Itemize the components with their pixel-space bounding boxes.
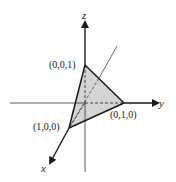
y-axis-label: y — [158, 97, 164, 109]
diagonal-line-upper — [99, 46, 117, 78]
x-axis-label: x — [40, 162, 46, 174]
diagram-canvas: z y x (0,0,1) (0,1,0) (1,0,0) — [0, 0, 176, 182]
vertex-z-label: (0,0,1) — [49, 59, 76, 71]
z-axis-label: z — [81, 9, 87, 21]
vertex-x-label: (1,0,0) — [33, 121, 60, 133]
x-axis-arrow — [50, 128, 69, 163]
vertex-y-label: (0,1,0) — [110, 109, 137, 121]
